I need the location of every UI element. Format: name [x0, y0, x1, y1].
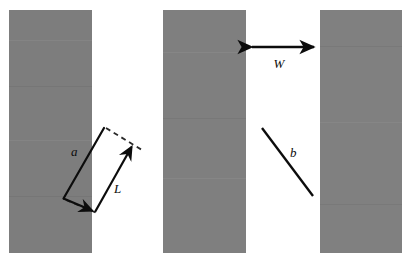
label-b: b	[290, 145, 297, 160]
diagram-svg: a L W b	[0, 0, 407, 261]
slab-left	[9, 10, 92, 253]
figure-canvas: a L W b	[0, 0, 407, 261]
dimension-line-b	[262, 128, 313, 196]
dashed-extension-top	[106, 128, 142, 150]
dimension-arrow-L	[95, 147, 132, 212]
label-L: L	[113, 181, 121, 196]
slab-middle	[163, 10, 246, 253]
label-W: W	[274, 56, 286, 71]
label-a: a	[71, 144, 78, 159]
